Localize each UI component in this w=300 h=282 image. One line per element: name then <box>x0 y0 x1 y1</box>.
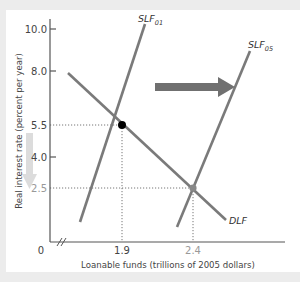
initial-equilibrium-point <box>118 121 126 129</box>
y-tick-2-5: 2.5 <box>31 183 47 194</box>
dlf-curve <box>68 73 226 220</box>
x-tick-labels: 0 1.9 2.4 <box>38 245 201 256</box>
y-tick-5-5: 5.5 <box>31 120 47 131</box>
y-tick-4: 4.0 <box>31 152 47 163</box>
y-axis-label: Real interest rate (percent per year) <box>14 53 24 209</box>
right-arrow-icon <box>155 77 235 97</box>
x-tick-2-4: 2.4 <box>185 245 201 256</box>
y-tick-10: 10.0 <box>25 24 47 35</box>
slf01-label: SLF01 <box>138 13 163 27</box>
slf05-label: SLF05 <box>248 39 273 53</box>
new-equilibrium-point <box>189 184 196 191</box>
x-tick-0: 0 <box>38 245 44 256</box>
slf05-curve <box>177 51 250 227</box>
loanable-funds-chart: 10.0 8.0 5.5 4.0 2.5 0 1.9 2.4 Loanable … <box>6 10 300 272</box>
x-axis-label: Loanable funds (trillions of 2005 dollar… <box>81 260 255 270</box>
y-tick-8: 8.0 <box>31 66 47 77</box>
x-tick-1-9: 1.9 <box>114 245 130 256</box>
dlf-label: DLF <box>229 215 248 226</box>
guide-lines <box>50 125 193 242</box>
chart-panel: 10.0 8.0 5.5 4.0 2.5 0 1.9 2.4 Loanable … <box>6 10 300 272</box>
slf01-curve <box>80 24 145 222</box>
